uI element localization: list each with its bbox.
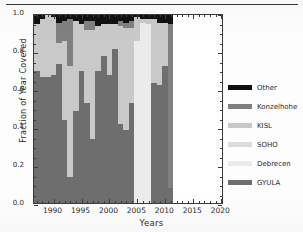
- legend-swatch-kisl: [228, 123, 252, 128]
- x-minor-tick: [154, 201, 155, 203]
- y-minor-tick: [34, 129, 36, 130]
- plot-area: [33, 14, 223, 204]
- y-minor-tick: [34, 82, 36, 83]
- y-minor-tick: [220, 139, 222, 140]
- y-minor-tick: [34, 34, 36, 35]
- x-minor-tick: [154, 15, 155, 17]
- y-minor-tick: [34, 186, 36, 187]
- x-minor-tick: [98, 15, 99, 17]
- x-tick: [54, 15, 55, 19]
- x-minor-tick: [199, 201, 200, 203]
- x-minor-tick: [188, 15, 189, 17]
- legend-label: Other: [257, 84, 277, 92]
- x-minor-tick: [199, 15, 200, 17]
- x-minor-tick: [87, 201, 88, 203]
- legend-item-debrecen: Debrecen: [228, 154, 302, 173]
- x-minor-tick: [76, 15, 77, 17]
- x-tick: [137, 199, 138, 203]
- x-tick: [165, 15, 166, 19]
- x-minor-tick: [93, 15, 94, 17]
- x-tick: [82, 199, 83, 203]
- y-minor-tick: [34, 72, 36, 73]
- y-minor-tick: [34, 101, 36, 102]
- x-tick: [109, 199, 110, 203]
- x-minor-tick: [37, 201, 38, 203]
- x-minor-tick: [121, 15, 122, 17]
- y-minor-tick: [220, 72, 222, 73]
- x-minor-tick: [210, 15, 211, 17]
- x-minor-tick: [160, 15, 161, 17]
- y-minor-tick: [220, 186, 222, 187]
- y-minor-tick: [220, 82, 222, 83]
- y-minor-tick: [34, 110, 36, 111]
- x-tick: [193, 15, 194, 19]
- y-minor-tick: [220, 158, 222, 159]
- y-tick: [218, 53, 222, 54]
- y-minor-tick: [34, 44, 36, 45]
- legend-label: GYULA: [257, 179, 280, 187]
- x-minor-tick: [70, 201, 71, 203]
- x-tick: [82, 15, 83, 19]
- bar-2011: [168, 15, 174, 203]
- x-minor-tick: [177, 201, 178, 203]
- bar-segment-konzelhohe: [168, 24, 174, 188]
- y-minor-tick: [220, 44, 222, 45]
- legend-item-konzelhohe: Konzelhohe: [228, 97, 302, 116]
- y-minor-tick: [220, 120, 222, 121]
- legend-label: Debrecen: [257, 160, 291, 168]
- y-minor-tick: [220, 196, 222, 197]
- x-minor-tick: [59, 201, 60, 203]
- x-minor-tick: [182, 201, 183, 203]
- x-minor-tick: [216, 15, 217, 17]
- legend-swatch-debrecen: [228, 161, 252, 166]
- x-minor-tick: [121, 201, 122, 203]
- x-minor-tick: [65, 15, 66, 17]
- x-minor-tick: [143, 15, 144, 17]
- stacked-bars-container: [34, 15, 222, 203]
- chart-legend: OtherKonzelhoheKISLSOHODebrecenGYULA: [228, 78, 302, 192]
- x-minor-tick: [171, 15, 172, 17]
- x-minor-tick: [177, 15, 178, 17]
- x-minor-tick: [42, 15, 43, 17]
- x-minor-tick: [149, 201, 150, 203]
- x-minor-tick: [160, 201, 161, 203]
- y-tick: [218, 91, 222, 92]
- x-minor-tick: [93, 201, 94, 203]
- legend-swatch-other: [228, 85, 252, 90]
- x-minor-tick: [204, 15, 205, 17]
- y-minor-tick: [34, 120, 36, 121]
- x-tick-label: 2020: [202, 206, 238, 215]
- x-tick: [221, 199, 222, 203]
- x-minor-tick: [37, 15, 38, 17]
- legend-swatch-soho: [228, 142, 252, 147]
- x-tick: [165, 199, 166, 203]
- x-tick: [137, 15, 138, 19]
- x-minor-tick: [132, 15, 133, 17]
- x-minor-tick: [48, 201, 49, 203]
- legend-label: KISL: [257, 122, 272, 130]
- y-tick-label: 0.0: [0, 200, 24, 207]
- x-axis-title: Years: [0, 218, 303, 228]
- legend-swatch-konzelhohe: [228, 104, 252, 109]
- x-minor-tick: [115, 15, 116, 17]
- x-minor-tick: [216, 201, 217, 203]
- x-minor-tick: [76, 201, 77, 203]
- y-minor-tick: [220, 129, 222, 130]
- legend-item-soho: SOHO: [228, 135, 302, 154]
- legend-swatch-gyula: [228, 180, 252, 185]
- y-minor-tick: [220, 110, 222, 111]
- x-minor-tick: [182, 15, 183, 17]
- x-minor-tick: [126, 201, 127, 203]
- chart-figure: 0.00.20.40.60.81.0 199019952000200520102…: [0, 0, 303, 232]
- x-minor-tick: [98, 201, 99, 203]
- x-minor-tick: [204, 201, 205, 203]
- scan-artifact-line: [6, 4, 298, 5]
- legend-label: SOHO: [257, 141, 278, 149]
- y-minor-tick: [34, 148, 36, 149]
- y-minor-tick: [220, 25, 222, 26]
- x-minor-tick: [132, 201, 133, 203]
- y-minor-tick: [34, 25, 36, 26]
- x-minor-tick: [210, 201, 211, 203]
- y-tick: [34, 53, 38, 54]
- y-minor-tick: [34, 158, 36, 159]
